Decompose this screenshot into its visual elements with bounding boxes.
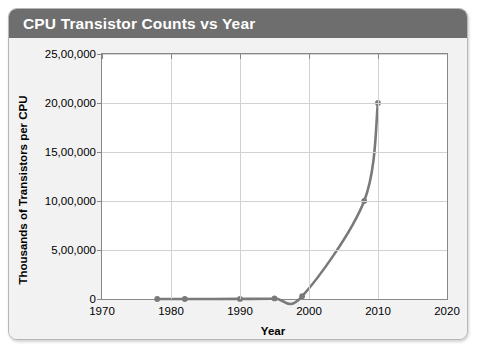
x-tick-label: 1980 <box>158 299 184 317</box>
x-tick-label: 1970 <box>89 299 115 317</box>
series-path <box>157 103 378 304</box>
chart-title-bar: CPU Transistor Counts vs Year <box>9 9 467 39</box>
x-tick-label: 1990 <box>227 299 253 317</box>
y-tick-label: 20,00,000 <box>45 97 102 109</box>
x-tick-mark <box>240 54 241 59</box>
data-series-line <box>102 54 447 299</box>
y-tick-label: 25,00,000 <box>45 48 102 60</box>
chart-title: CPU Transistor Counts vs Year <box>23 15 255 33</box>
y-gridline <box>102 201 447 202</box>
x-gridline <box>378 54 379 299</box>
chart-screenshot: CPU Transistor Counts vs Year Thousands … <box>0 0 481 354</box>
x-tick-mark <box>378 54 379 59</box>
x-gridline <box>240 54 241 299</box>
x-axis-label: Year <box>261 325 285 337</box>
x-tick-mark <box>102 54 103 59</box>
x-tick-mark <box>309 54 310 59</box>
y-gridline <box>102 54 447 55</box>
y-axis-label: Thousands of Transistors per CPU <box>17 95 29 284</box>
chart-body: Thousands of Transistors per CPU Year 05… <box>9 38 468 340</box>
x-tick-label: 2010 <box>365 299 391 317</box>
x-tick-label: 2020 <box>434 299 460 317</box>
y-tick-label: 10,00,000 <box>45 195 102 207</box>
plot-area: 05,00,00010,00,00015,00,00020,00,00025,0… <box>101 53 448 300</box>
y-tick-label: 15,00,000 <box>45 146 102 158</box>
series-marker <box>272 296 278 302</box>
x-gridline <box>171 54 172 299</box>
x-gridline <box>309 54 310 299</box>
x-tick-mark <box>447 54 448 59</box>
y-tick-label: 5,00,000 <box>51 244 102 256</box>
y-gridline <box>102 152 447 153</box>
y-gridline <box>102 103 447 104</box>
chart-card: CPU Transistor Counts vs Year Thousands … <box>8 8 468 340</box>
y-gridline <box>102 250 447 251</box>
x-tick-label: 2000 <box>296 299 322 317</box>
x-tick-mark <box>171 54 172 59</box>
